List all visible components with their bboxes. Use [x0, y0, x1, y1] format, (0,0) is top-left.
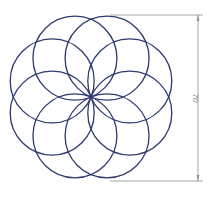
rosette-circle [33, 94, 117, 178]
rosette-circle [88, 39, 172, 123]
rosette-drawing: 70 [0, 0, 211, 197]
dimension-label: 70 [191, 94, 200, 103]
arrow-top-icon [197, 15, 200, 21]
arrow-bottom-icon [197, 175, 200, 181]
rosette-circle [10, 71, 94, 155]
rosette-circles [10, 16, 172, 178]
rosette-circle [65, 16, 149, 100]
rosette-circle [33, 16, 117, 100]
rosette-circle [88, 71, 172, 155]
rosette-circle [10, 39, 94, 123]
rosette-circle [65, 94, 149, 178]
